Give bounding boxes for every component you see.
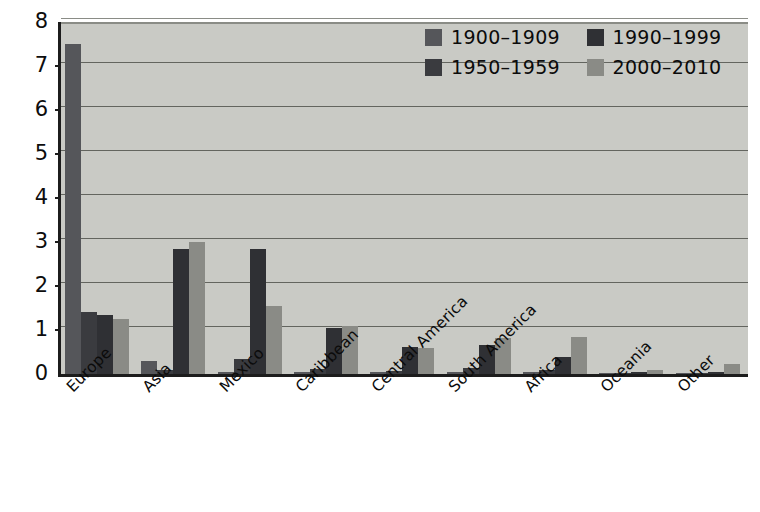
y-tick-label: 8 (22, 11, 48, 32)
legend-item: 2000–2010 (587, 56, 731, 78)
bar (65, 44, 81, 374)
bar (647, 370, 663, 374)
chart-figure: 012345678 EuropeAsiaMexicoCaribbeanCentr… (0, 0, 760, 512)
legend-item: 1990–1999 (587, 26, 731, 48)
y-tick-label: 2 (22, 275, 48, 296)
y-tick-label: 1 (22, 319, 48, 340)
bar-group (294, 22, 358, 374)
bar-group (141, 22, 205, 374)
legend-label: 1950–1959 (451, 56, 560, 78)
y-tick-label: 7 (22, 55, 48, 76)
y-tick-label: 0 (22, 363, 48, 384)
legend-swatch (587, 29, 604, 46)
legend-swatch (425, 59, 442, 76)
y-tick-label: 6 (22, 99, 48, 120)
bar (189, 242, 205, 374)
legend-label: 1990–1999 (613, 26, 722, 48)
legend-label: 2000–2010 (613, 56, 722, 78)
bar (571, 337, 587, 374)
legend-item: 1900–1909 (425, 26, 569, 48)
y-tick-label: 3 (22, 231, 48, 252)
legend-label: 1900–1909 (451, 26, 560, 48)
legend-swatch (425, 29, 442, 46)
bar (631, 372, 647, 374)
background-bleed-text (300, 398, 400, 420)
bar (266, 306, 282, 374)
bar (113, 319, 129, 374)
bar-group (218, 22, 282, 374)
y-tick-label: 4 (22, 187, 48, 208)
legend-swatch (587, 59, 604, 76)
y-tick-label: 5 (22, 143, 48, 164)
bar (173, 249, 189, 374)
bar (724, 364, 740, 374)
chart-legend: 1900–19091990–19991950–19592000–2010 (425, 26, 730, 78)
bar-group (65, 22, 129, 374)
legend-item: 1950–1959 (425, 56, 569, 78)
gridline (61, 18, 748, 19)
